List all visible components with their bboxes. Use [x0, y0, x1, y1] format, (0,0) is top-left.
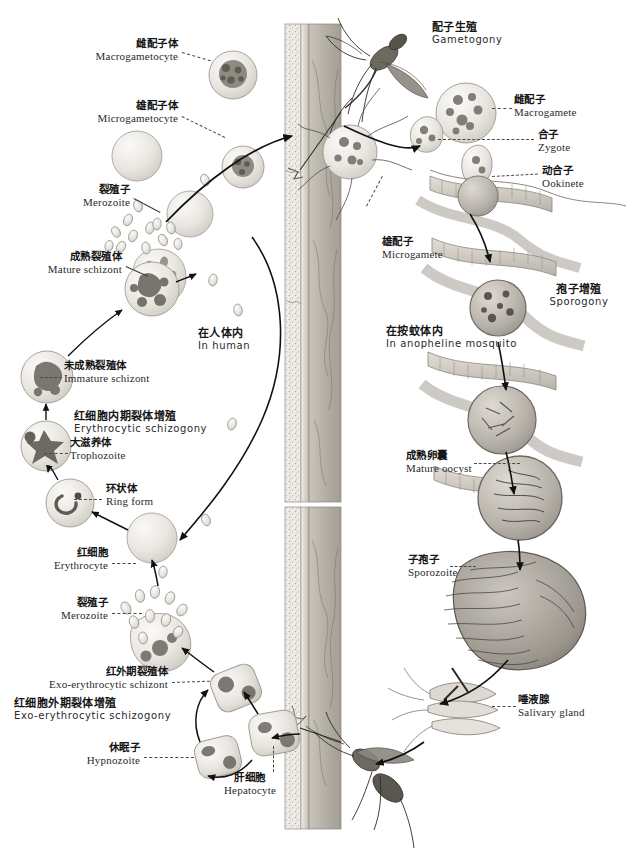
label-mature-schizont: 成熟裂殖体 Mature schizont — [14, 251, 122, 275]
label-ookinete-en: Ookinete — [542, 177, 584, 189]
label-mature-oocyst: 成熟卵囊 Mature oocyst — [406, 450, 472, 474]
schizont-rupture-arrow — [182, 648, 214, 672]
label-ring-form-en: Ring form — [106, 495, 153, 507]
label-mature-oocyst-en: Mature oocyst — [406, 462, 472, 474]
label-macrogametocyte-cn: 雌配子体 — [60, 38, 178, 50]
gut-epithelium-band-3 — [428, 352, 556, 390]
label-salivary-gland-cn: 唾液腺 — [518, 694, 585, 706]
blood-meal-to-gut-arrow — [344, 126, 420, 148]
trophozoite-cell — [21, 421, 71, 471]
oocyst-burst-arrow — [518, 540, 520, 570]
label-exo-erythrocytic-schizont: 红外期裂殖体 Exo-erythrocytic schizont — [8, 666, 168, 690]
leader-trophozoite — [44, 453, 68, 454]
leader-ookinete — [492, 174, 538, 177]
leader-immature-schizont — [40, 377, 62, 378]
sporozoite-to-gland-arrow — [440, 660, 508, 704]
plain-erythrocyte-mid — [167, 191, 213, 237]
label-macrogametocyte: 雌配子体 Macrogametocyte — [60, 38, 178, 62]
oocyst-stage-1 — [458, 176, 498, 216]
feeding-mosquito-top — [300, 18, 428, 170]
leader-macrogametocyte — [182, 52, 211, 61]
macrogametocyte-cell — [209, 51, 257, 99]
leader-mature-schizont — [126, 266, 148, 277]
caption-in-human: 在人体内 In human — [198, 328, 250, 352]
leader-erythrocyte — [112, 563, 136, 564]
hepatocyte-cell — [247, 708, 302, 758]
caption-gametogony-cn: 配子生殖 — [432, 22, 503, 34]
label-erythrocyte: 红细胞 Erythrocyte — [24, 547, 108, 571]
caption-erythrocytic-schizogony-cn: 红细胞内期裂体增殖 — [74, 411, 207, 423]
label-macrogamete-cn: 雌配子 — [514, 94, 577, 106]
leader-microgamete — [366, 176, 383, 206]
label-hypnozoite-cn: 休眠子 — [58, 742, 140, 754]
macrogamete-cell — [436, 83, 496, 143]
feeding-mosquito-bottom — [300, 712, 414, 848]
label-sporozoite: 子孢子 Sporozoite — [408, 554, 458, 578]
caption-gametogony-en: Gametogony — [432, 34, 503, 45]
label-immature-schizont: 未成熟裂殖体 Immature schizont — [64, 360, 150, 384]
label-exo-erythrocytic-schizont-en: Exo-erythrocytic schizont — [8, 678, 168, 690]
label-microgamete-cn: 雄配子 — [382, 236, 443, 248]
label-mature-schizont-en: Mature schizont — [14, 263, 122, 275]
leader-ring-form — [74, 499, 102, 500]
salivary-gland-art — [388, 668, 500, 752]
mature-to-bursting-arrow — [176, 274, 196, 282]
label-merozoite-lower-cn: 裂殖子 — [26, 597, 108, 609]
gut-epithelium-band-2 — [432, 238, 556, 276]
label-hepatocyte-cn: 肝细胞 — [208, 772, 292, 784]
label-salivary-gland: 唾液腺 Salivary gland — [518, 694, 585, 718]
ookinete-cell — [462, 145, 492, 186]
label-hepatocyte-en: Hepatocyte — [208, 784, 292, 796]
microgamete-cell — [298, 88, 412, 220]
caption-in-human-en: In human — [198, 340, 250, 351]
caption-erythrocytic-schizogony: 红细胞内期裂体增殖 Erythrocytic schizogony — [74, 411, 207, 435]
caption-in-anopheline-mosquito: 在按蚊体内 In anopheline mosquito — [386, 326, 517, 350]
leader-zygote — [438, 139, 534, 140]
leader-merozoite-lower — [112, 613, 142, 614]
label-merozoite-upper: 裂殖子 Merozoite — [48, 184, 130, 208]
rupturing-liver-cell — [119, 585, 191, 671]
in-human-arc — [180, 237, 281, 540]
sporozoite-mass — [444, 551, 586, 669]
label-immature-schizont-en: Immature schizont — [64, 372, 150, 384]
label-ring-form: 环状体 Ring form — [106, 483, 153, 507]
label-trophozoite-cn: 大滋养体 — [70, 437, 126, 449]
lower-skin-section — [285, 507, 341, 829]
leader-microgametocyte — [182, 116, 226, 138]
gametocyte-to-mosquito-arrow — [166, 136, 292, 222]
label-zygote-en: Zygote — [538, 141, 570, 153]
label-mature-oocyst-cn: 成熟卵囊 — [406, 450, 472, 462]
label-microgamete-en: Microgamete — [382, 248, 443, 260]
plain-erythrocyte-upper — [112, 131, 162, 181]
caption-gametogony: 配子生殖 Gametogony — [432, 22, 503, 46]
label-ring-form-cn: 环状体 — [106, 483, 153, 495]
label-microgametocyte-en: Microgametocyte — [60, 112, 178, 124]
label-sporozoite-cn: 子孢子 — [408, 554, 458, 566]
label-hypnozoite: 休眠子 Hypnozoite — [58, 742, 140, 766]
caption-sporogony-en: Sporogony — [536, 296, 622, 307]
label-merozoite-upper-cn: 裂殖子 — [48, 184, 130, 196]
leader-macrogamete — [492, 108, 512, 109]
caption-in-anopheline-mosquito-cn: 在按蚊体内 — [386, 326, 517, 338]
label-macrogamete: 雌配子 Macrogamete — [514, 94, 577, 118]
label-salivary-gland-en: Salivary gland — [518, 706, 585, 718]
caption-in-anopheline-mosquito-en: In anopheline mosquito — [386, 338, 517, 349]
label-macrogametocyte-en: Macrogametocyte — [60, 50, 178, 62]
label-microgamete: 雄配子 Microgamete — [382, 236, 443, 260]
malaria-life-cycle-figure: 雌配子体 Macrogametocyte 雄配子体 Microgametocyt… — [0, 0, 626, 859]
label-exo-erythrocytic-schizont-cn: 红外期裂殖体 — [8, 666, 168, 678]
label-zygote-cn: 合子 — [538, 129, 570, 141]
exo-erythrocytic-schizont-cell — [207, 661, 265, 715]
label-erythrocyte-cn: 红细胞 — [24, 547, 108, 559]
immature-to-mature-arrow — [68, 310, 122, 356]
hypnozoite-to-schizont-arrow — [196, 690, 208, 742]
zygote-cell — [410, 117, 443, 152]
caption-sporogony: 孢子增殖 Sporogony — [536, 284, 622, 308]
label-ookinete-cn: 动合子 — [542, 165, 584, 177]
caption-exo-erythrocytic-schizogony-en: Exo-erythrocytic schizogony — [14, 710, 171, 721]
label-merozoite-lower: 裂殖子 Merozoite — [26, 597, 108, 621]
gland-to-bite-arrow — [376, 742, 424, 764]
merozoite-to-erythrocyte-arrow — [152, 560, 158, 586]
label-ookinete: 动合子 Ookinete — [542, 165, 584, 189]
label-merozoite-upper-en: Merozoite — [48, 196, 130, 208]
